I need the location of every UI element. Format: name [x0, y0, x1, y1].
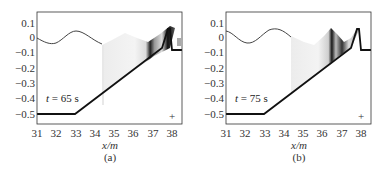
svg-text:35: 35	[298, 127, 310, 139]
time-annotation: t = 65 s	[46, 92, 79, 104]
svg-text:−0.5: −0.5	[204, 108, 224, 120]
x-axis-label: x/m	[290, 139, 307, 151]
time-annotation: t = 75 s	[235, 92, 268, 104]
field-base	[102, 45, 104, 105]
svg-text:33: 33	[71, 127, 83, 139]
svg-text:38: 38	[356, 127, 368, 139]
svg-text:36: 36	[317, 127, 329, 139]
svg-text:−0.4: −0.4	[204, 92, 224, 104]
x-axis: 31 32 33 34 35 36 37 38	[32, 127, 179, 139]
svg-text:−0.3: −0.3	[15, 77, 35, 89]
svg-text:33: 33	[260, 127, 272, 139]
svg-text:−0.3: −0.3	[204, 77, 224, 89]
x-axis: 31 32 33 34 35 36 37 38	[221, 127, 368, 139]
svg-text:38: 38	[167, 127, 179, 139]
svg-text:31: 31	[221, 127, 232, 139]
right-blob	[177, 38, 181, 46]
svg-text:0.1: 0.1	[21, 17, 35, 29]
svg-text:−0.2: −0.2	[204, 62, 224, 74]
caption-b: (b)	[293, 151, 306, 164]
y-axis: 0.1 0 −0.1 −0.2 −0.3 −0.4 −0.5	[15, 17, 35, 120]
svg-text:32: 32	[240, 127, 251, 139]
y-axis: 0.1 0 −0.1 −0.2 −0.3 −0.4 −0.5	[204, 17, 224, 120]
svg-text:31: 31	[32, 127, 43, 139]
svg-text:34: 34	[279, 127, 291, 139]
svg-text:−0.2: −0.2	[15, 62, 35, 74]
plus-marker: +	[358, 110, 364, 122]
svg-text:0.1: 0.1	[210, 17, 224, 29]
plus-marker: +	[169, 110, 175, 122]
free-surface-line	[37, 31, 102, 44]
svg-text:32: 32	[51, 127, 62, 139]
panel-b: 0.1 0 −0.1 −0.2 −0.3 −0.4 −0.5 31 32 33 …	[189, 0, 379, 174]
panel-a: 0.1 0 −0.1 −0.2 −0.3 −0.4 −0.5 31 32 33 …	[0, 0, 190, 174]
svg-text:−0.4: −0.4	[15, 92, 35, 104]
svg-text:−0.1: −0.1	[15, 46, 35, 58]
x-axis-label: x/m	[101, 139, 118, 151]
svg-text:37: 37	[337, 127, 349, 139]
svg-text:0: 0	[30, 31, 36, 43]
svg-text:−0.1: −0.1	[204, 46, 224, 58]
chart-b: 0.1 0 −0.1 −0.2 −0.3 −0.4 −0.5 31 32 33 …	[189, 0, 379, 174]
svg-text:34: 34	[90, 127, 102, 139]
svg-text:0: 0	[219, 31, 225, 43]
caption-a: (a)	[104, 151, 117, 164]
svg-text:37: 37	[148, 127, 160, 139]
svg-text:36: 36	[128, 127, 140, 139]
svg-text:−0.5: −0.5	[15, 108, 35, 120]
free-surface-line	[226, 29, 291, 43]
svg-text:35: 35	[109, 127, 121, 139]
chart-a: 0.1 0 −0.1 −0.2 −0.3 −0.4 −0.5 31 32 33 …	[0, 0, 190, 174]
